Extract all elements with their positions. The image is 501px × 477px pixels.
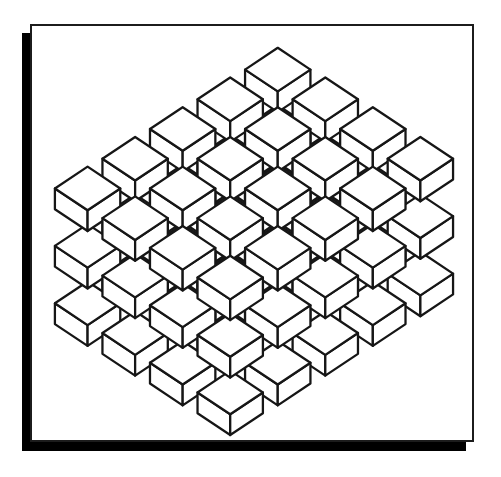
illustration-card (30, 24, 474, 442)
page-background (0, 0, 501, 477)
isometric-cubes-illustration (32, 26, 472, 440)
